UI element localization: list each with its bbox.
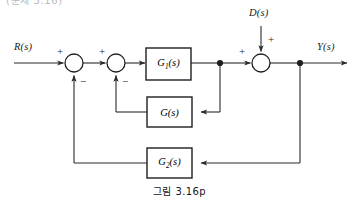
- output-signal-label: Y(s): [317, 42, 335, 53]
- block-g1-label-wrap: G1(s): [146, 48, 191, 80]
- takeoff-node-inner: [217, 60, 223, 66]
- sum2-minus-sign: −: [122, 76, 128, 87]
- summing-junction-1: [65, 54, 83, 72]
- summing-junction-3: [252, 54, 270, 72]
- sum3-disturbance-plus-sign: +: [268, 34, 274, 45]
- sum2-plus-sign: +: [99, 46, 105, 57]
- block-g2-label: G2(s): [158, 156, 180, 170]
- sum1-minus-sign: −: [80, 76, 86, 87]
- takeoff-node-outer: [297, 60, 303, 66]
- summing-junction-2: [107, 54, 125, 72]
- block-g2-label-wrap: G2(s): [147, 148, 192, 178]
- block-g-label: G(s): [160, 107, 179, 118]
- figure-caption: 그림 3.16p: [0, 183, 359, 198]
- sum3-plus-sign: +: [239, 46, 245, 57]
- input-signal-label: R(s): [14, 42, 32, 53]
- block-g-label-wrap: G(s): [147, 97, 192, 127]
- block-g1-label: G1(s): [157, 57, 179, 71]
- disturbance-signal-label: D(s): [249, 8, 268, 19]
- sum1-plus-sign: +: [57, 46, 63, 57]
- figure-root: (문제 3.16): [0, 0, 359, 205]
